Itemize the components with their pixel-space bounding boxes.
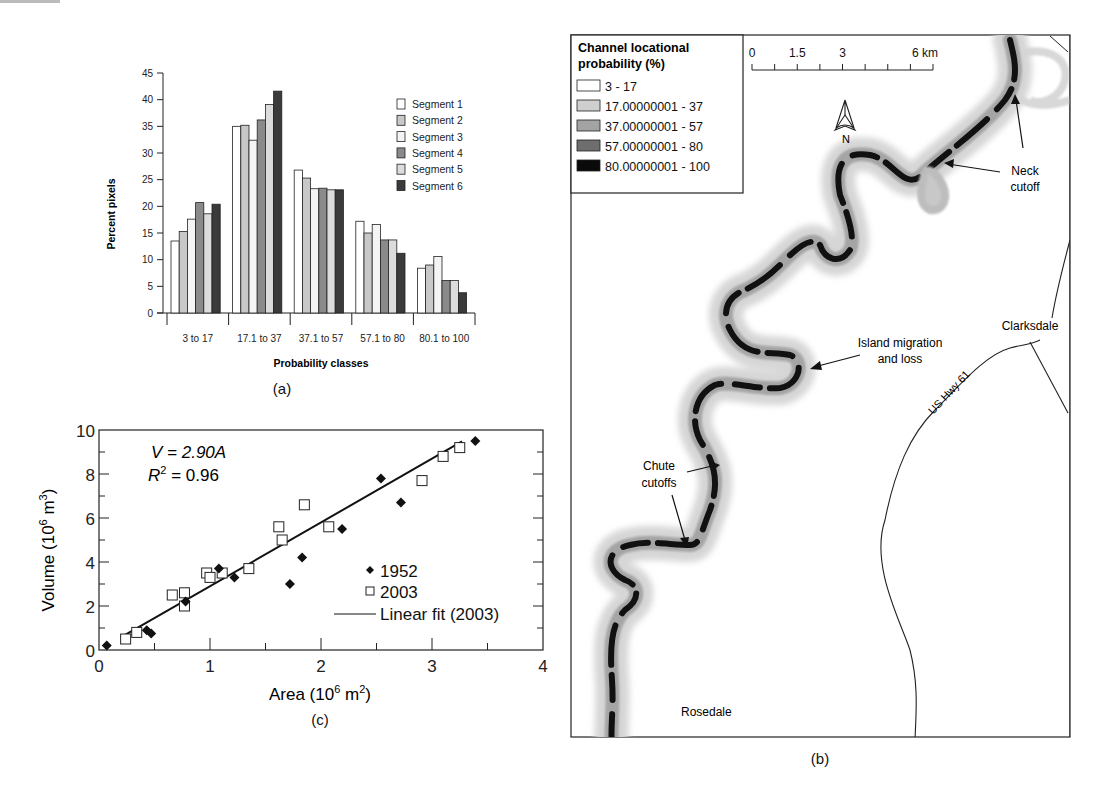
bar (450, 280, 458, 313)
x-tick-label: 17.1 to 37 (237, 333, 282, 344)
plot-frame: 024681001234 (76, 422, 548, 676)
map-legend-title-2: probability (%) (578, 57, 665, 71)
point-2003 (417, 476, 427, 486)
y-tick-label: 25 (142, 174, 154, 185)
place-label-rosedale: Rosedale (681, 705, 732, 719)
x-tick-label: 4 (538, 657, 547, 676)
map-legend-label: 37.00000001 - 57 (605, 120, 703, 134)
bar (335, 190, 343, 313)
point-2003 (121, 634, 131, 644)
bar (265, 104, 273, 313)
y-tick-label: 35 (142, 121, 154, 132)
scale-label: 3 (839, 46, 846, 60)
legend-label: Segment 2 (412, 114, 463, 126)
legend-label: Segment 3 (412, 131, 463, 143)
x-tick-label: 3 to 17 (183, 333, 214, 344)
y-tick-label: 40 (142, 94, 154, 105)
caption-b: (b) (800, 750, 840, 767)
bar (380, 240, 388, 313)
bar (257, 120, 265, 313)
bar (274, 91, 282, 313)
legend-label: Segment 5 (412, 163, 463, 175)
y-tick-label: 30 (142, 148, 154, 159)
legend-label: Segment 4 (412, 147, 463, 159)
svg-text:cutoff: cutoff (1010, 180, 1040, 194)
svg-text:and loss: and loss (878, 352, 923, 366)
point-1952 (376, 473, 386, 483)
y-tick-label: 4 (86, 554, 95, 573)
bar (241, 125, 249, 313)
point-2003 (324, 522, 334, 532)
point-2003 (205, 572, 215, 582)
legend-swatch (397, 164, 405, 174)
point-2003 (455, 443, 465, 453)
map-legend-label: 3 - 17 (605, 80, 637, 94)
legend-swatch (397, 181, 405, 191)
x-axis-label: Probability classes (273, 357, 368, 369)
scale-label: 0 (749, 46, 756, 60)
legend-label: Segment 6 (412, 180, 463, 192)
point-1952 (396, 498, 406, 508)
x-tick-label: 2 (316, 657, 325, 676)
map-legend-label: 17.00000001 - 37 (605, 100, 703, 114)
bar (397, 253, 405, 313)
legend-label: Linear fit (2003) (380, 605, 499, 624)
bar (364, 233, 372, 313)
place-label-clarksdale: Clarksdale (1002, 319, 1059, 333)
bar (372, 224, 380, 313)
y-tick-label: 10 (76, 422, 95, 441)
map-legend-label: 57.00000001 - 80 (605, 140, 703, 154)
x-axis-label: Area (106 m2) (269, 683, 371, 704)
legend-swatch (397, 115, 405, 125)
point-2003 (167, 590, 177, 600)
bar (249, 140, 257, 313)
bar (179, 231, 187, 313)
y-tick-label: 6 (86, 510, 95, 529)
point-2003 (244, 564, 254, 574)
point-1952 (102, 641, 112, 651)
y-tick-label: 15 (142, 228, 154, 239)
scale-label: 1.5 (789, 46, 806, 60)
x-axis: 3 to 1717.1 to 3737.1 to 5757.1 to 8080.… (167, 313, 475, 344)
point-1952 (297, 553, 307, 563)
point-2003 (277, 535, 287, 545)
legend-swatch (397, 148, 405, 158)
bar (233, 126, 241, 313)
y-tick-label: 45 (142, 68, 154, 79)
bar (294, 170, 302, 313)
river-map-panel-b: Channel locational probability (%) 3 - 1… (560, 20, 1090, 750)
legend-label: 1952 (380, 562, 418, 581)
bar (187, 219, 195, 313)
bar (311, 189, 319, 313)
caption-a: (a) (262, 380, 302, 397)
scatter-legend: 19522003Linear fit (2003) (334, 562, 499, 624)
neck-cutoff-loop (921, 170, 945, 210)
svg-text:Island migration: Island migration (858, 336, 943, 350)
north-label: N (842, 133, 850, 145)
y-axis-label: Percent pixels (105, 178, 117, 249)
legend-swatch (397, 132, 405, 142)
legend-swatch (397, 99, 405, 109)
bar (458, 293, 466, 313)
svg-text:Chute: Chute (643, 459, 675, 473)
bar (212, 204, 220, 313)
x-tick-label: 37.1 to 57 (299, 333, 344, 344)
bar (196, 203, 204, 313)
legend-label: Segment 1 (412, 98, 463, 110)
bar (434, 256, 442, 313)
map-legend-swatch (577, 120, 600, 131)
caption-c: (c) (300, 711, 340, 728)
bar (327, 190, 335, 313)
svg-text:cutoffs: cutoffs (641, 476, 676, 490)
point-2003 (274, 522, 284, 532)
bar-chart-panel-a: Percent pixels 051015202530354045 3 to 1… (0, 0, 560, 400)
x-tick-label: 0 (94, 657, 103, 676)
point-1952 (285, 579, 295, 589)
x-tick-label: 1 (205, 657, 214, 676)
map-legend-label: 80.00000001 - 100 (605, 160, 710, 174)
bar (171, 241, 179, 313)
bar (426, 265, 434, 313)
scale-label: 6 km (912, 46, 938, 60)
equation-label: V = 2.90A (151, 443, 226, 462)
r-squared-label: R2 = 0.96 (148, 464, 219, 485)
